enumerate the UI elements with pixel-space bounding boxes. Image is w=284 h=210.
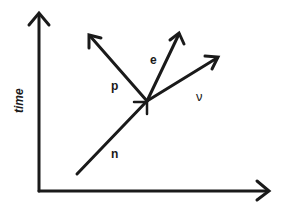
space-axis <box>39 181 269 200</box>
neutrino-label: ν <box>196 89 203 104</box>
neutron-line <box>77 101 147 174</box>
time-axis-label: time <box>12 88 26 113</box>
neutron-label: n <box>111 147 118 161</box>
electron-label: e <box>150 53 157 67</box>
proton-label: p <box>111 79 118 93</box>
time-axis <box>29 13 49 191</box>
feynman-diagram: p e ν n time <box>0 0 284 210</box>
